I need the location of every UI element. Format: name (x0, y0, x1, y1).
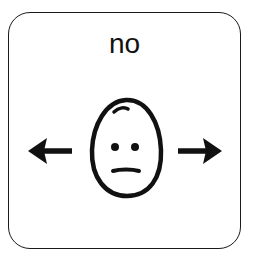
left-arrow-icon (28, 138, 72, 164)
symbol-illustration (0, 0, 258, 256)
face-icon (92, 100, 161, 196)
right-arrow-icon (178, 138, 222, 164)
